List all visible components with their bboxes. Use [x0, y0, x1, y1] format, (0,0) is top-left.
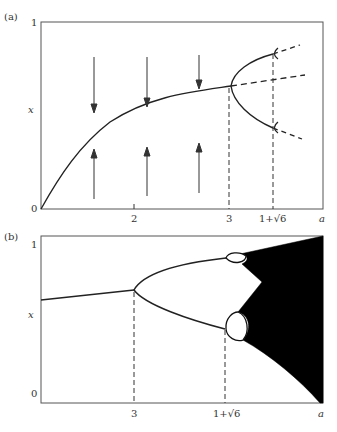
arrow-down-icon — [91, 104, 97, 113]
panel-b-ytick-1: 1 — [31, 239, 37, 250]
panel-a-ytick-1: 1 — [31, 17, 37, 28]
panel-b-xtick-3: 3 — [131, 408, 137, 419]
panel-b: (b) 1 0 x 3 1+√6 a — [4, 231, 324, 419]
panel-b-ylabel: x — [28, 309, 34, 320]
chaotic-region — [238, 236, 323, 403]
panel-b-ytick-0: 0 — [31, 388, 37, 399]
period-4-lower-loop — [226, 312, 247, 341]
arrow-up-icon — [91, 149, 97, 158]
period-4-upper-loop — [226, 253, 246, 263]
panel-b-xtick-1plussqrt6: 1+√6 — [213, 408, 240, 419]
panel-a-ylabel: x — [28, 104, 34, 115]
lower-bifurcation-mark — [275, 122, 279, 133]
arrow-up-icon — [196, 143, 202, 152]
panel-a-xtick-1plussqrt6: 1+√6 — [259, 213, 286, 224]
panel-b-fixed-point — [41, 290, 134, 300]
panel-a-xtick-3: 3 — [226, 213, 232, 224]
panel-a-xlabel: a — [319, 213, 325, 224]
stable-fixed-point-curve — [41, 86, 231, 209]
panel-a-frame — [41, 22, 323, 209]
panel-b-xlabel: a — [318, 408, 324, 419]
unstable-fixed-point-dashed — [231, 75, 305, 86]
panel-a: (a) 1 0 x 2 3 1+√6 a — [4, 11, 325, 224]
bifurcation-figure: (a) 1 0 x 2 3 1+√6 a — [0, 0, 337, 432]
panel-a-ytick-0: 0 — [31, 203, 37, 214]
panel-a-xtick-2: 2 — [131, 213, 137, 224]
panel-b-label: (b) — [4, 231, 18, 242]
panel-b-period-2 — [134, 258, 226, 329]
arrow-up-icon — [144, 147, 150, 156]
period-2-branches — [231, 54, 273, 128]
period-2-lower-dashed — [273, 128, 302, 139]
panel-a-label: (a) — [4, 11, 18, 22]
arrow-down-icon — [196, 80, 202, 89]
attraction-arrows — [91, 55, 202, 199]
